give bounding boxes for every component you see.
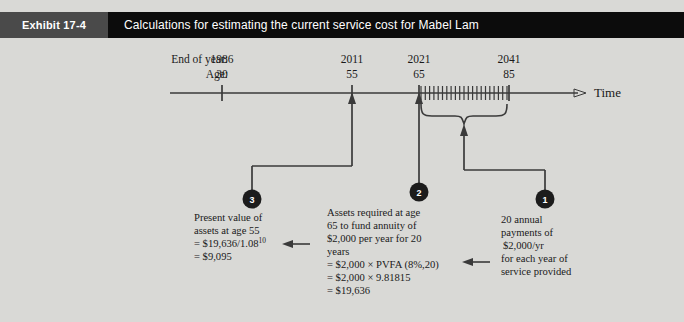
timeline-axis: Time <box>170 85 621 100</box>
marker-2: 2 <box>410 183 429 202</box>
note1-line-4: service provided <box>501 266 572 277</box>
connector-marker-3 <box>252 92 356 190</box>
note3-line-2: = $19,636/1.0810 <box>194 236 266 249</box>
marker-1-label: 1 <box>542 195 547 205</box>
exhibit-title: Calculations for estimating the current … <box>108 12 684 38</box>
arrow-note2-to-note3 <box>282 240 310 248</box>
timeline-year-0: 1986 <box>211 53 234 65</box>
timeline-payment-ticks <box>421 86 507 100</box>
note2-line-1: 65 to fund annuity of <box>327 220 417 231</box>
exhibit-header: Exhibit 17-4 Calculations for estimating… <box>0 12 684 38</box>
note2-line-4: = $2,000 × PVFA (8%,20) <box>327 259 439 271</box>
exhibit-figure: Exhibit 17-4 Calculations for estimating… <box>0 0 684 322</box>
note2-line-6: = $19,636 <box>327 285 370 296</box>
connector-1-arrow-icon <box>460 124 468 136</box>
note3-line-3: = $9,095 <box>194 251 232 262</box>
timeline-age-2: 65 <box>413 68 425 80</box>
note2-line-3: years <box>327 246 349 257</box>
note3-line-1: assets at age 55 <box>194 225 260 236</box>
timeline-year-2: 2021 <box>408 53 431 65</box>
marker-1: 1 <box>536 190 555 209</box>
axis-label-time: Time <box>594 85 621 100</box>
exhibit-tag: Exhibit 17-4 <box>0 12 108 38</box>
timeline-age-3: 85 <box>503 68 515 80</box>
note3-exponent: 10 <box>259 236 267 245</box>
timeline-year-1: 2011 <box>341 53 364 65</box>
note3-line-0: Present value of <box>194 212 263 223</box>
note-block-2: Assets required at age 65 to fund annuit… <box>327 207 439 296</box>
note1-line-0: 20 annual <box>501 214 543 225</box>
note2-line-0: Assets required at age <box>327 207 421 218</box>
timeline-age-1: 55 <box>346 68 358 80</box>
marker-2-label: 2 <box>416 188 421 198</box>
note1-line-2: $2,000/yr <box>503 240 544 251</box>
note2-line-5: = $2,000 × 9.81815 <box>327 272 410 283</box>
marker-3: 3 <box>243 190 262 209</box>
payments-brace <box>421 104 507 124</box>
timeline-year-3: 2041 <box>498 53 521 65</box>
diagram-canvas: End of year: Age: 1986 30 2011 55 2021 6… <box>0 38 684 322</box>
note1-line-3: for each year of <box>501 253 568 264</box>
connector-marker-1 <box>460 124 545 190</box>
marker-3-label: 3 <box>249 195 254 205</box>
note1-line-1: payments of <box>501 227 554 238</box>
note-block-3: Present value of assets at age 55 = $19,… <box>194 212 266 262</box>
arrow-note1-to-note2 <box>462 258 490 266</box>
arrow-left-icon-b <box>462 258 473 266</box>
note2-line-2: $2,000 per year for 20 <box>327 233 421 244</box>
note-block-1: 20 annual payments of $2,000/yr for each… <box>501 214 572 277</box>
timeline-age-0: 30 <box>216 68 228 80</box>
note3-line-2-text: = $19,636/1.08 <box>194 238 259 249</box>
arrow-left-icon-a <box>282 240 293 248</box>
